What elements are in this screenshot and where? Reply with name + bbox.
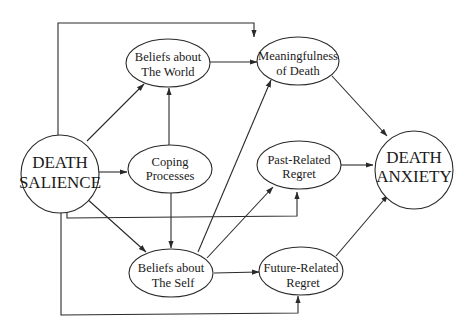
- node-label-line2: SALIENCE: [19, 173, 101, 192]
- node-coping-processes: Coping Processes: [128, 145, 212, 193]
- node-label-line1: Past-Related: [267, 153, 331, 167]
- edge-salience-to-beliefs-world: [87, 84, 144, 141]
- edge-beliefs-self-to-future-regret: [214, 272, 259, 273]
- node-label-line1: Meaningfulness: [258, 49, 338, 63]
- edge-salience-to-past-regret: [67, 192, 297, 218]
- node-label-line1: Coping: [152, 155, 190, 169]
- node-label-line2: of Death: [276, 64, 320, 78]
- edge-meaningfulness-to-anxiety: [332, 76, 387, 136]
- node-label-line2: Regret: [282, 167, 316, 181]
- node-label-line1: DEATH: [32, 153, 88, 172]
- node-label-line1: Beliefs about: [138, 261, 205, 275]
- node-death-anxiety: DEATH ANXIETY: [375, 131, 453, 209]
- edge-salience-to-beliefs-self: [86, 198, 146, 252]
- node-death-salience: DEATH SALIENCE: [19, 135, 101, 213]
- node-past-related-regret: Past-Related Regret: [257, 141, 341, 189]
- node-label-line2: ANXIETY: [376, 167, 452, 186]
- node-label-line2: The Self: [152, 276, 196, 290]
- node-label-line2: The World: [141, 65, 195, 79]
- node-label-line1: Future-Related: [264, 261, 340, 275]
- edge-beliefs-self-to-past-regret: [207, 187, 273, 258]
- node-label-line2: Processes: [146, 169, 195, 183]
- node-meaningfulness-of-death: Meaningfulness of Death: [257, 37, 339, 85]
- path-diagram: DEATH SALIENCE Beliefs about The World C…: [0, 0, 471, 331]
- node-label-line1: DEATH: [386, 148, 442, 167]
- node-label-line1: Beliefs about: [135, 50, 202, 64]
- edge-future-regret-to-anxiety: [336, 195, 388, 256]
- node-future-related-regret: Future-Related Regret: [259, 247, 343, 295]
- node-beliefs-self: Beliefs about The Self: [129, 249, 213, 297]
- node-label-line2: Regret: [286, 276, 320, 290]
- node-beliefs-world: Beliefs about The World: [126, 39, 210, 87]
